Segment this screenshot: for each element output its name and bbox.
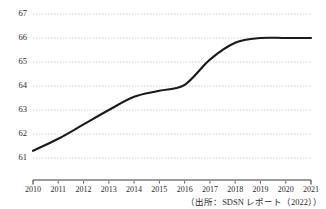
x-axis-tick-label: 2017 xyxy=(202,185,218,194)
chart-container: 61626364656667 2010201120122013201420152… xyxy=(0,0,326,209)
y-axis-tick-label: 65 xyxy=(19,56,28,66)
x-axis-tick-label-group: 2010201120122013201420152016201720182019… xyxy=(25,185,319,194)
x-axis-tick-label: 2011 xyxy=(50,185,66,194)
x-axis-tick-label: 2019 xyxy=(252,185,268,194)
x-axis-tick-label: 2015 xyxy=(151,185,167,194)
x-axis-tick-label: 2021 xyxy=(303,185,319,194)
line-chart: 61626364656667 2010201120122013201420152… xyxy=(0,0,326,209)
y-axis-tick-label: 66 xyxy=(19,32,28,42)
x-axis-tick-label: 2016 xyxy=(177,185,193,194)
x-axis-tick-label: 2010 xyxy=(25,185,41,194)
y-axis-tick-label: 67 xyxy=(19,8,28,18)
x-axis-tick-label: 2013 xyxy=(101,185,117,194)
x-axis-tick-label: 2012 xyxy=(76,185,92,194)
x-axis-tick-label: 2018 xyxy=(227,185,243,194)
gridline-group xyxy=(33,14,311,158)
y-axis-tick-label: 63 xyxy=(19,104,28,114)
x-axis-tick-label: 2020 xyxy=(278,185,294,194)
y-axis-tick-label: 61 xyxy=(19,152,28,162)
y-axis-tick-label-group: 61626364656667 xyxy=(19,8,28,162)
x-axis-tick-label: 2014 xyxy=(126,185,142,194)
y-axis-tick-label: 62 xyxy=(19,128,28,138)
source-note: （出所：SDSN レポート（2022）） xyxy=(186,195,322,207)
y-axis-tick-label: 64 xyxy=(19,80,28,90)
